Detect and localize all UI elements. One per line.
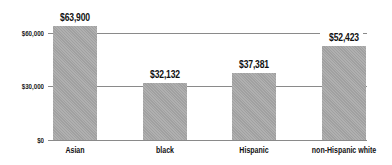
value-label: $32,132 [134,68,196,80]
value-label: $37,381 [223,58,285,70]
y-tick-label: $30,000 [8,82,44,91]
bar-chart: $60,000 $30,000 $0 $63,900 $32,132 $37,3… [0,0,392,165]
y-tick-label: $0 [8,136,44,145]
category-label: black [118,145,212,156]
bar-non-hispanic-white [322,46,366,140]
bar-hispanic [232,73,276,140]
y-tick-label: $60,000 [8,29,44,38]
value-label: $63,900 [44,11,106,23]
value-label: $52,423 [313,31,375,43]
category-label: Hispanic [207,145,301,156]
category-label: non-Hispanic white [297,145,391,156]
bar-asian [53,26,97,140]
category-label: Asian [28,145,122,156]
bar-black [143,83,187,140]
baseline-0 [48,140,367,141]
